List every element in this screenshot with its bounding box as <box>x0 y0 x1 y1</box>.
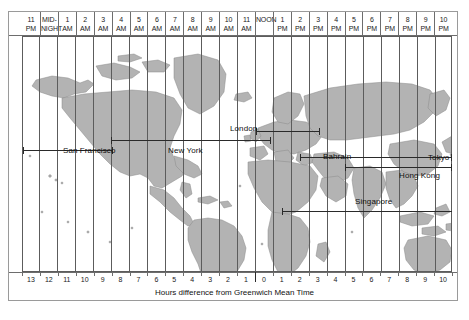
bar-cap-right <box>270 137 271 144</box>
city-label-hong-kong: Hong Kong <box>399 171 440 180</box>
axis-tick-15 <box>291 272 292 276</box>
axis-tick-2 <box>58 272 59 276</box>
gmt-offset-tick-9: 4 <box>183 276 201 283</box>
hour-tick-12: 11AM <box>237 12 255 36</box>
hour-tick-line1: 6 <box>148 15 165 24</box>
hour-tick-line1: MID- <box>41 15 58 24</box>
gridline-16 <box>309 36 310 272</box>
axis-tick-20 <box>380 272 381 276</box>
bar-cap-left <box>111 137 112 144</box>
hour-tick-7: 6AM <box>147 12 165 36</box>
axis-tick-8 <box>165 272 166 276</box>
gmt-offset-tick-1: 12 <box>40 276 58 283</box>
gmt-offset-tick-10: 3 <box>201 276 219 283</box>
bar-cap-left <box>345 164 346 171</box>
hour-tick-line1: 3 <box>310 15 327 24</box>
hour-tick-line2: PM <box>363 24 380 33</box>
hour-tick-line1: 11 <box>238 15 255 24</box>
hour-tick-17: 4PM <box>327 12 345 36</box>
hour-tick-line1: 5 <box>131 15 148 24</box>
hour-tick-line1: 2 <box>77 15 94 24</box>
gmt-offset-tick-14: 1 <box>273 276 291 283</box>
city-label-san-francisco: San Francisco <box>63 146 115 155</box>
gridline-19 <box>363 36 364 272</box>
gridline-22 <box>417 36 418 272</box>
city-label-london: London <box>230 124 257 133</box>
gridline-15 <box>291 36 292 272</box>
hour-tick-line2: NIGHT <box>41 24 58 33</box>
hour-tick-2: 1AM <box>58 12 76 36</box>
gmt-offset-tick-15: 2 <box>291 276 309 283</box>
gmt-offset-tick-20: 7 <box>380 276 398 283</box>
bar-cap-right <box>451 154 452 161</box>
hour-tick-line2: AM <box>59 24 76 33</box>
axis-tick-14 <box>273 272 274 276</box>
hour-tick-6: 5AM <box>130 12 148 36</box>
gmt-offset-tick-3: 10 <box>76 276 94 283</box>
axis-tick-22 <box>416 272 417 276</box>
hour-tick-line2: PM <box>274 24 291 33</box>
hour-tick-line2: PM <box>328 24 345 33</box>
hour-tick-line1: 5 <box>346 15 363 24</box>
gmt-offset-tick-4: 9 <box>94 276 112 283</box>
top-hour-axis: 11PMMID-NIGHT1AM2AM3AM4AM5AM6AM7AM8AM9AM… <box>9 12 457 36</box>
hour-tick-line2: PM <box>310 24 327 33</box>
city-label-bahrain: Bahrain <box>323 152 351 161</box>
axis-tick-4 <box>94 272 95 276</box>
axis-tick-0 <box>22 272 23 276</box>
hour-tick-line2: AM <box>113 24 130 33</box>
bar-cap-right <box>451 164 452 171</box>
hour-tick-line2: AM <box>131 24 148 33</box>
hour-tick-4: 3AM <box>94 12 112 36</box>
hour-tick-19: 6PM <box>362 12 380 36</box>
hour-tick-line1: 9 <box>202 15 219 24</box>
axis-tick-5 <box>112 272 113 276</box>
gridline-11 <box>219 36 220 272</box>
gridline-1 <box>39 36 40 272</box>
axis-tick-18 <box>345 272 346 276</box>
city-bar-london <box>256 131 320 132</box>
axis-tick-23 <box>434 272 435 276</box>
hour-tick-line1: 7 <box>381 15 398 24</box>
hour-tick-line2: AM <box>166 24 183 33</box>
hour-tick-line2: AM <box>202 24 219 33</box>
hour-tick-line2: AM <box>77 24 94 33</box>
city-bar-new-york <box>111 140 271 141</box>
hour-tick-3: 2AM <box>76 12 94 36</box>
hour-tick-line1: 10 <box>220 15 237 24</box>
hour-tick-line2: AM <box>184 24 201 33</box>
hour-tick-line1: 11 <box>22 15 40 24</box>
axis-tick-16 <box>309 272 310 276</box>
hour-tick-13: NOON <box>255 12 273 36</box>
bar-cap-right <box>319 128 320 135</box>
axis-tick-24 <box>452 272 453 276</box>
hour-tick-line1: 7 <box>166 15 183 24</box>
hour-tick-line1: 9 <box>417 15 434 24</box>
hour-tick-line2: PM <box>22 24 40 33</box>
hour-tick-5: 4AM <box>112 12 130 36</box>
hour-tick-line1: 8 <box>399 15 416 24</box>
hour-tick-line2: AM <box>220 24 237 33</box>
axis-tick-9 <box>183 272 184 276</box>
hour-tick-11: 10AM <box>219 12 237 36</box>
hour-tick-line2: PM <box>346 24 363 33</box>
gmt-offset-tick-6: 7 <box>130 276 148 283</box>
hour-tick-14: 1PM <box>273 12 291 36</box>
axis-tick-7 <box>147 272 148 276</box>
greenwich-meridian-marker <box>255 272 256 282</box>
hour-tick-10: 9AM <box>201 12 219 36</box>
hour-tick-line2: PM <box>381 24 398 33</box>
gmt-offset-tick-5: 8 <box>112 276 130 283</box>
axis-tick-12 <box>237 272 238 276</box>
hour-tick-line1: 6 <box>363 15 380 24</box>
hour-tick-line2: AM <box>238 24 255 33</box>
hour-tick-22: 9PM <box>416 12 434 36</box>
hour-tick-1: MID-NIGHT <box>40 12 58 36</box>
axis-tick-1 <box>40 272 41 276</box>
gmt-offset-tick-2: 11 <box>58 276 76 283</box>
gridline-0 <box>22 36 23 272</box>
hour-tick-line1: 4 <box>113 15 130 24</box>
axis-tick-19 <box>362 272 363 276</box>
hour-tick-18: 5PM <box>345 12 363 36</box>
hour-tick-line2: PM <box>292 24 309 33</box>
